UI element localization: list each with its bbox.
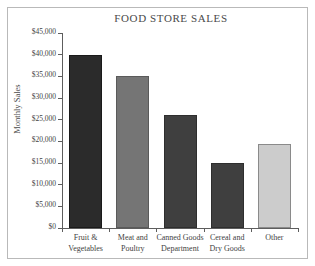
y-tick-mark [58, 54, 62, 55]
x-tick-mark [156, 228, 157, 232]
y-tick-mark [58, 206, 62, 207]
y-tick-label: $35,000 [32, 70, 56, 79]
x-tick-mark [109, 228, 110, 232]
x-category-line: Dry Goods [204, 244, 251, 255]
x-category-line: Poultry [109, 244, 156, 255]
chart-title: FOOD STORE SALES [40, 12, 302, 24]
x-tick-mark [62, 228, 63, 232]
x-category-line: Fruit & [62, 233, 109, 244]
x-category-label: Other [251, 233, 298, 244]
y-tick-label: $40,000 [32, 49, 56, 58]
y-tick-label: $0 [49, 222, 57, 231]
y-tick-mark [58, 184, 62, 185]
x-category-label: Fruit &Vegetables [62, 233, 109, 254]
y-tick-label: $15,000 [32, 157, 56, 166]
bar [116, 76, 149, 228]
y-tick-mark [58, 141, 62, 142]
x-category-line: Cereal and [204, 233, 251, 244]
x-category-line: Meat and [109, 233, 156, 244]
x-tick-mark [251, 228, 252, 232]
bar [211, 163, 244, 228]
y-tick-label: $25,000 [32, 114, 56, 123]
x-axis-line [62, 228, 299, 229]
bar [164, 115, 197, 228]
y-tick-mark [58, 119, 62, 120]
y-tick-label: $10,000 [32, 179, 56, 188]
x-category-label: Meat andPoultry [109, 233, 156, 254]
y-tick-label: $30,000 [32, 92, 56, 101]
plot-area: $0$5,000$10,000$15,000$20,000$25,000$30,… [62, 33, 298, 228]
x-category-line: Vegetables [62, 244, 109, 255]
x-category-label: Canned GoodsDepartment [156, 233, 203, 254]
x-category-line: Canned Goods [156, 233, 203, 244]
chart-figure: FOOD STORE SALES Monthly Sales $0$5,000$… [0, 0, 315, 266]
y-tick-label: $45,000 [32, 27, 56, 36]
x-tick-mark [204, 228, 205, 232]
bar [258, 144, 291, 229]
y-tick-mark [58, 163, 62, 164]
x-tick-mark [298, 228, 299, 232]
y-tick-mark [58, 98, 62, 99]
x-category-line: Other [251, 233, 298, 244]
y-tick-mark [58, 76, 62, 77]
y-tick-label: $20,000 [32, 135, 56, 144]
bar [69, 55, 102, 228]
y-tick-label: $5,000 [35, 200, 56, 209]
y-axis-label: Monthly Sales [12, 54, 22, 164]
x-category-label: Cereal andDry Goods [204, 233, 251, 254]
y-tick-mark [58, 33, 62, 34]
x-category-line: Department [156, 244, 203, 255]
